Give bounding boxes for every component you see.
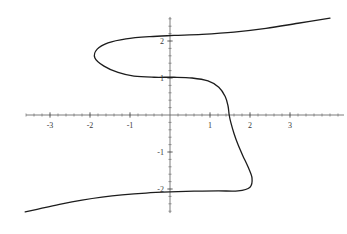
y-tick-label: 2: [160, 37, 164, 46]
x-tick-label: 3: [288, 121, 292, 130]
x-tick-label: -2: [87, 121, 94, 130]
x-tick-label: -1: [127, 121, 134, 130]
plot-canvas: -3-2-112321-1-2: [0, 0, 347, 234]
y-tick-label: -2: [157, 185, 164, 194]
x-tick-label: 1: [208, 121, 212, 130]
x-tick-label: -3: [47, 121, 54, 130]
plot-figure: -3-2-112321-1-2: [0, 0, 347, 234]
x-tick-label: 2: [248, 121, 252, 130]
y-tick-label: -1: [157, 148, 164, 157]
y-tick-label: 1: [160, 74, 164, 83]
